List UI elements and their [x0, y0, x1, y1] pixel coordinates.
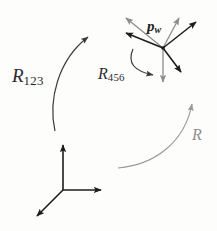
rotation-diagram-figure: R123 R456 R pw: [0, 0, 217, 231]
label-r: R: [192, 127, 202, 143]
label-pw: pw: [147, 19, 161, 35]
axis-down-left: [37, 190, 63, 216]
curve-r123: [53, 37, 88, 131]
diagram-canvas: [0, 0, 217, 231]
curve-r456: [131, 49, 153, 75]
point-pw-dot: [161, 46, 165, 50]
arrow-left-black: [126, 33, 163, 48]
arrow-down-right-black: [163, 48, 181, 72]
label-r456: R456: [98, 66, 125, 83]
arrow-upper-right-black: [163, 22, 196, 48]
world-coordinate-frame: [37, 145, 101, 216]
label-r123: R123: [12, 66, 44, 88]
arrow-upper-right-gray: [163, 18, 179, 48]
curve-r: [118, 104, 192, 168]
